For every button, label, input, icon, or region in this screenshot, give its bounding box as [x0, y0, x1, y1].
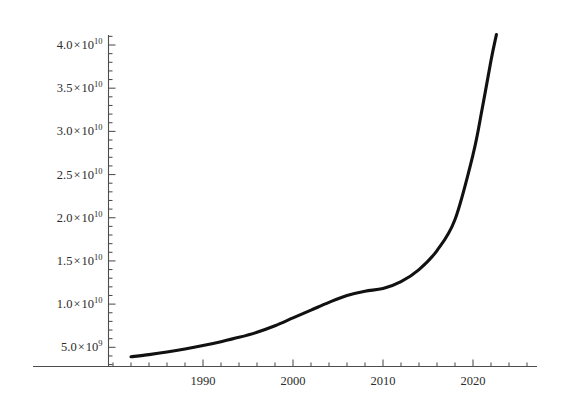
y-tick-mantissa: 1.0	[57, 297, 73, 311]
multiplication-sign: ×	[72, 297, 81, 311]
multiplication-sign: ×	[72, 124, 81, 138]
y-tick-base: 10	[82, 254, 95, 268]
y-tick-mantissa: 3.5	[57, 81, 73, 95]
multiplication-sign: ×	[72, 81, 81, 95]
data-series-curve	[131, 35, 496, 357]
y-tick-label: 1.0×1010	[57, 298, 103, 311]
y-tick-base: 10	[82, 124, 95, 138]
y-tick-base: 10	[82, 38, 95, 52]
y-tick-label: 3.5×1010	[57, 82, 103, 95]
y-tick-exponent: 10	[94, 208, 103, 218]
y-tick-base: 10	[82, 81, 95, 95]
y-tick-mantissa: 2.0	[57, 210, 73, 224]
multiplication-sign: ×	[72, 38, 81, 52]
x-tick-label: 2010	[371, 375, 396, 388]
y-axis-ticks	[109, 36, 116, 364]
multiplication-sign: ×	[77, 340, 86, 354]
y-tick-mantissa: 1.5	[57, 254, 73, 268]
y-tick-mantissa: 2.5	[57, 167, 73, 181]
y-tick-base: 10	[82, 210, 95, 224]
y-tick-mantissa: 4.0	[57, 38, 73, 52]
y-tick-mantissa: 5.0	[61, 340, 77, 354]
multiplication-sign: ×	[72, 254, 81, 268]
chart-plot-area: 5.0×1091.0×10101.5×10102.0×10102.5×10103…	[0, 0, 577, 400]
y-tick-exponent: 9	[98, 338, 102, 348]
y-tick-label: 4.0×1010	[57, 39, 103, 52]
x-tick-label: 2020	[461, 375, 486, 388]
y-tick-label: 2.0×1010	[57, 211, 103, 224]
multiplication-sign: ×	[72, 167, 81, 181]
y-tick-exponent: 10	[94, 165, 103, 175]
y-tick-exponent: 10	[94, 295, 103, 305]
y-tick-base: 10	[82, 297, 95, 311]
y-tick-exponent: 10	[94, 79, 103, 89]
y-tick-exponent: 10	[94, 36, 103, 46]
x-tick-label: 2000	[281, 375, 306, 388]
y-tick-label: 5.0×109	[61, 341, 102, 354]
y-tick-label: 3.0×1010	[57, 125, 103, 138]
multiplication-sign: ×	[72, 210, 81, 224]
y-tick-label: 1.5×1010	[57, 255, 103, 268]
y-tick-exponent: 10	[94, 122, 103, 132]
y-tick-mantissa: 3.0	[57, 124, 73, 138]
y-tick-label: 2.5×1010	[57, 168, 103, 181]
y-tick-exponent: 10	[94, 251, 103, 261]
y-tick-base: 10	[82, 167, 95, 181]
y-tick-base: 10	[86, 340, 99, 354]
x-axis-ticks	[113, 360, 527, 367]
x-tick-label: 1990	[191, 375, 216, 388]
